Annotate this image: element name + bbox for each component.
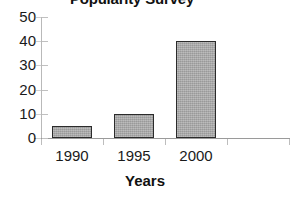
x-axis-tick-label: 1995 <box>103 148 165 164</box>
y-axis-tick <box>42 90 48 91</box>
x-axis-tick <box>289 139 290 145</box>
y-axis-tick-label: 0 <box>2 130 36 145</box>
y-axis-tick <box>42 114 48 115</box>
y-axis-tick-stub <box>36 65 41 66</box>
y-axis-tick-stub <box>36 41 41 42</box>
chart-title: Popularity Survey <box>0 0 264 7</box>
bar <box>114 114 154 138</box>
x-axis-tick <box>41 139 42 145</box>
y-axis-tick-stub <box>36 114 41 115</box>
y-axis-tick-label: 40 <box>2 33 36 48</box>
y-axis-tick <box>42 138 48 139</box>
bar <box>176 41 216 138</box>
y-axis-line <box>41 17 42 139</box>
y-axis-tick <box>42 41 48 42</box>
x-axis-tick <box>227 139 228 145</box>
x-axis-tick <box>165 139 166 145</box>
x-axis-title: Years <box>41 172 249 189</box>
y-axis-tick-stub <box>36 90 41 91</box>
bar <box>52 126 92 138</box>
bar-chart: Popularity Survey 01020304050 1990199520… <box>0 0 298 197</box>
x-axis-tick-label: 2000 <box>165 148 227 164</box>
y-axis-tick-label: 20 <box>2 82 36 97</box>
y-axis-tick-label: 10 <box>2 106 36 121</box>
x-axis-tick <box>103 139 104 145</box>
y-axis-tick <box>42 17 48 18</box>
y-axis-tick-label: 50 <box>2 9 36 24</box>
x-axis-tick-label: 1990 <box>41 148 103 164</box>
y-axis-tick <box>42 65 48 66</box>
x-axis-line <box>34 138 290 139</box>
y-axis-tick-label: 30 <box>2 57 36 72</box>
y-axis-tick-stub <box>36 17 41 18</box>
